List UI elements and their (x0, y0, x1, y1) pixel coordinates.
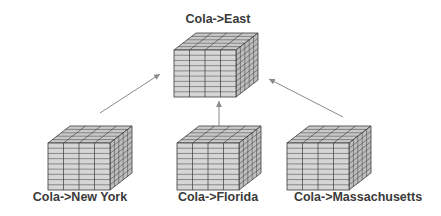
arrow-newyork-to-east (100, 74, 160, 113)
cube-new-york (48, 126, 132, 190)
label-east: Cola->East (186, 12, 252, 26)
label-florida: Cola->Florida (178, 190, 259, 204)
cube-florida (177, 126, 261, 190)
arrow-massachusetts-to-east (269, 79, 343, 117)
cube-massachusetts (287, 126, 371, 190)
consolidation-diagram: Cola->East Cola->New York Cola->Florida … (0, 0, 441, 216)
label-new-york: Cola->New York (33, 190, 127, 204)
label-massachusetts: Cola->Massachusetts (294, 190, 422, 204)
cube-east (174, 33, 258, 97)
